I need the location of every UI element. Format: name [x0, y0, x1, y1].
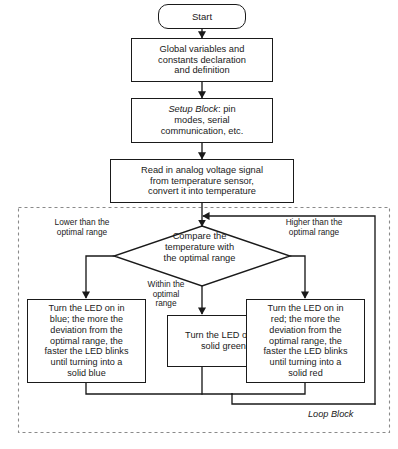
edge-label-lower: Lower than the optimal range: [40, 218, 124, 237]
node-global-variables[interactable]: Global variables and constants declarati…: [131, 38, 273, 82]
edge-decision-red: [290, 256, 305, 297]
node-led-blue-label: Turn the LED on in blue; the more the de…: [28, 303, 145, 378]
loop-block-label: Loop Block: [308, 409, 353, 419]
node-setup-block-emphasis: Setup Block: [168, 104, 218, 114]
flowchart-canvas: Start Global variables and constants dec…: [0, 0, 398, 449]
edge-label-higher: Higher than the optimal range: [272, 218, 356, 237]
node-led-red-label: Turn the LED on in red; the more the dev…: [247, 303, 364, 378]
node-led-blue[interactable]: Turn the LED on in blue; the more the de…: [27, 299, 146, 383]
edge-blue-merge: [86, 383, 232, 394]
edge-decision-blue: [86, 256, 114, 297]
node-compare-label: Compare the temperature with the optimal…: [134, 231, 265, 264]
node-start[interactable]: Start: [158, 4, 246, 29]
node-start-label: Start: [159, 11, 245, 22]
edge-merge-riser: [232, 394, 375, 404]
node-read-sensor-label: Read in analog voltage signal from tempe…: [111, 165, 293, 198]
node-global-variables-label: Global variables and constants declarati…: [132, 44, 272, 77]
edge-red-merge: [232, 383, 305, 394]
node-setup-block-label: Setup Block: pin modes, serial communica…: [132, 104, 272, 137]
node-read-sensor[interactable]: Read in analog voltage signal from tempe…: [110, 159, 294, 203]
edge-label-within: Within the optimal range: [140, 280, 192, 309]
node-led-red[interactable]: Turn the LED on in red; the more the dev…: [246, 299, 365, 383]
node-setup-block[interactable]: Setup Block: pin modes, serial communica…: [131, 98, 273, 143]
